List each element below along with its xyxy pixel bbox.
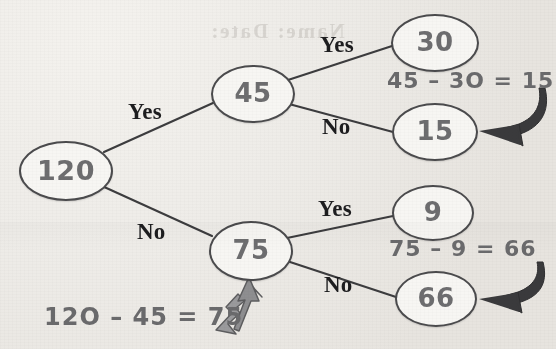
tree-node-66[interactable]: 66 [395,271,477,327]
branch-label-yes-45: Yes [320,32,354,58]
tree-node-9-label: 9 [424,197,443,227]
tree-node-45[interactable]: 45 [211,65,295,123]
branch-label-yes-75: Yes [318,196,352,222]
tree-node-15[interactable]: 15 [392,103,478,161]
branch-label-no-root: No [137,219,166,245]
arrow-to-15-icon [479,88,547,146]
equation-75-minus-9: 75 – 9 = 66 [389,236,537,261]
tree-node-30[interactable]: 30 [391,14,479,72]
branch-label-no-45: No [322,114,351,140]
branch-label-yes-root: Yes [128,99,162,125]
tree-node-75-label: 75 [232,235,269,265]
tree-node-66-label: 66 [417,283,454,313]
tree-node-root[interactable]: 120 [19,141,113,201]
arrow-to-66-icon [479,262,545,313]
tree-node-15-label: 15 [416,116,453,146]
equation-120-minus-45: 12O – 45 = 75 [44,303,243,331]
tree-node-root-label: 120 [37,155,95,186]
tree-node-45-label: 45 [234,78,271,108]
tree-node-9[interactable]: 9 [392,185,474,241]
worksheet-page: Name: Date: 120 [0,0,556,349]
tree-node-75[interactable]: 75 [209,221,293,281]
branch-label-no-75: No [324,272,353,298]
tree-node-30-label: 30 [416,27,453,57]
equation-45-minus-30: 45 – 3O = 15 [387,68,554,93]
